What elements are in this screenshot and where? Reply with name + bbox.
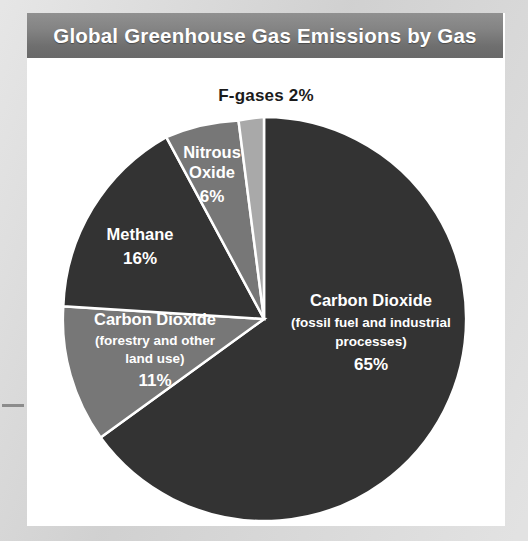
label-co2-forestry-line2: (forestry and other (95, 333, 216, 348)
label-methane-name: Methane (107, 225, 174, 243)
label-nitrous-oxide-line1: Nitrous (183, 143, 241, 161)
label-co2-fossil-line1: Carbon Dioxide (310, 291, 432, 309)
label-methane-percent: 16% (123, 249, 157, 268)
page-title: Global Greenhouse Gas Emissions by Gas (53, 24, 476, 48)
pie-chart-area: F-gases 2% Carbon Dioxide (fossil fuel a… (27, 58, 505, 526)
label-co2-fossil-percent: 65% (354, 355, 388, 374)
label-co2-forestry-percent: 11% (138, 371, 171, 390)
label-co2-forestry-line1: Carbon Dioxide (94, 310, 216, 328)
label-co2-forestry-line3: land use) (125, 351, 184, 366)
chart-card: Global Greenhouse Gas Emissions by Gas F… (27, 13, 505, 526)
label-co2-fossil-line3: processes) (335, 334, 406, 349)
label-nitrous-oxide-percent: 6% (200, 187, 225, 206)
label-co2-fossil-line2: (fossil fuel and industrial (291, 315, 451, 330)
label-nitrous-oxide-line2: Oxide (189, 163, 235, 181)
chart-title-bar: Global Greenhouse Gas Emissions by Gas (27, 13, 503, 58)
pie-chart-svg: Carbon Dioxide (fossil fuel and industri… (27, 58, 505, 526)
page-edge-tick-mark (2, 404, 24, 407)
